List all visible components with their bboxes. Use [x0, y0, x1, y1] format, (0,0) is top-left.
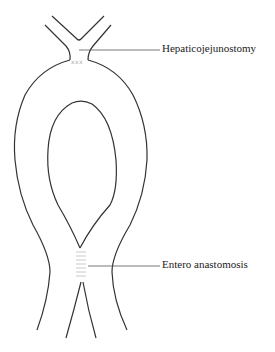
entero-anastomosis-sutures: [76, 252, 86, 276]
label-entero-anastomosis: Entero anastomosis: [162, 258, 248, 270]
bile-duct-left-branch: [45, 25, 70, 60]
outer-jejunal-loop-right: [88, 60, 147, 330]
bile-duct-inner-v: [52, 16, 104, 40]
bile-duct-right-branch: [88, 25, 111, 60]
inner-loop: [48, 101, 117, 248]
suture-marks-top: xxx: [71, 58, 83, 65]
lower-limb-right: [83, 282, 96, 338]
label-hepaticojejunostomy: Hepaticojejunostomy: [162, 42, 256, 54]
outer-jejunal-loop-left: [14, 60, 70, 330]
lower-limb-left: [66, 282, 81, 338]
